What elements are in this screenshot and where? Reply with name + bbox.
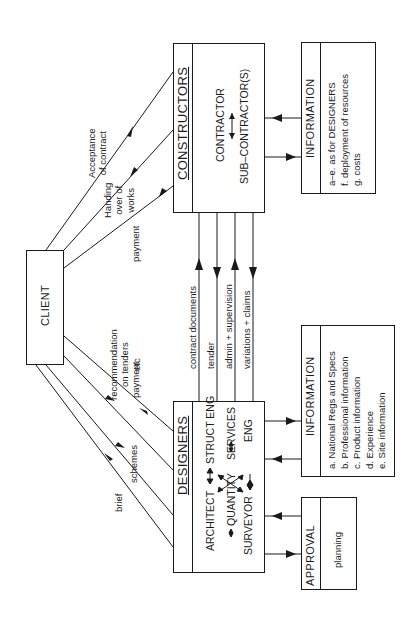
admin-supervision-label: admin + supervision	[223, 284, 234, 369]
info-designers-title: INFORMATION	[304, 357, 316, 436]
schemes-label: schemes	[128, 445, 139, 483]
arrow-variations	[249, 267, 257, 279]
info-constructors-box: INFORMATION a–e. as for DESIGNERS f. dep…	[301, 42, 376, 194]
constructors-title: CONSTRUCTORS	[175, 67, 190, 180]
info-item: a. National Regs and Specs	[326, 351, 339, 469]
info-constructors-title: INFORMATION	[304, 79, 316, 158]
tender-label: tender	[205, 342, 216, 369]
info-item: c. Product information	[351, 351, 364, 469]
arrow-tender	[213, 267, 221, 279]
acceptance-line	[46, 72, 173, 250]
arrow-schemes	[115, 442, 125, 448]
arrow-admin	[231, 258, 239, 270]
contract-documents-label: contract documents	[187, 286, 198, 369]
client-label: CLIENT	[39, 285, 51, 326]
approval-box: APPROVAL planning	[301, 497, 357, 590]
arrow-payment-designers	[139, 408, 148, 415]
approval-item: planning	[332, 532, 343, 568]
header-divider	[192, 44, 193, 212]
acceptance-label: Acceptance of contract	[86, 128, 109, 178]
arrow-acceptance	[127, 126, 133, 137]
subcontractor-label: SUB–CONTRACTOR(S)	[238, 69, 250, 184]
role-links-icon	[198, 402, 264, 572]
designers-box: DESIGNERS ARCHITECT STRUCT ENG QUANTITY …	[173, 401, 265, 573]
contractor-label: CONTRACTOR	[214, 88, 226, 162]
designers-title: DESIGNERS	[175, 416, 190, 495]
arrow-contract-documents	[195, 258, 203, 270]
variations-claims-label: variations + claims	[241, 291, 252, 369]
payment-designers-label: payment	[130, 362, 141, 398]
client-box: CLIENT	[26, 250, 64, 365]
approval-title: APPROVAL	[304, 525, 316, 586]
arrow-payment-constructors	[159, 188, 167, 197]
payment-constructors-label: payment	[130, 226, 141, 262]
header-divider	[320, 326, 321, 476]
info-item: e. Site information	[376, 351, 389, 469]
header-divider	[192, 402, 193, 572]
arrow-handing	[130, 167, 138, 177]
info-designers-box: INFORMATION a. National Regs and Specs b…	[301, 325, 395, 477]
brief-label: brief	[113, 494, 124, 512]
info-constructors-list: a–e. as for DESIGNERS f. deployment of r…	[326, 74, 364, 186]
info-item: g. costs	[351, 74, 364, 186]
info-item: f. deployment of resources	[339, 74, 352, 186]
contractor-link-icon	[226, 111, 238, 141]
header-divider	[320, 43, 321, 193]
info-item: b. Professional information	[339, 351, 352, 469]
handing-label: Handing over of works	[102, 183, 136, 218]
info-item: d. Experience	[364, 351, 377, 469]
info-item: a–e. as for DESIGNERS	[326, 74, 339, 186]
header-divider	[320, 498, 321, 589]
info-designers-list: a. National Regs and Specs b. Profession…	[326, 351, 389, 469]
constructors-box: CONSTRUCTORS CONTRACTOR SUB–CONTRACTOR(S…	[173, 43, 265, 213]
